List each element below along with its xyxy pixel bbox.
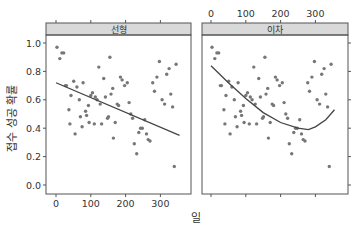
- data-point: [290, 152, 293, 155]
- data-point: [315, 98, 318, 101]
- data-point: [286, 117, 289, 120]
- data-point: [262, 115, 265, 118]
- data-point: [310, 75, 313, 78]
- points: [210, 46, 332, 169]
- data-point: [255, 122, 258, 125]
- data-point: [93, 122, 96, 125]
- data-point: [300, 132, 303, 135]
- data-point: [308, 90, 311, 93]
- data-point: [242, 121, 245, 124]
- data-point: [153, 90, 156, 93]
- data-point: [210, 46, 213, 49]
- data-point: [288, 142, 291, 145]
- data-point: [58, 57, 61, 60]
- data-point: [292, 131, 295, 134]
- data-point: [123, 84, 126, 87]
- data-point: [217, 51, 220, 54]
- data-point: [68, 122, 71, 125]
- y-tick-label: 0.4: [26, 123, 41, 134]
- data-point: [155, 75, 158, 78]
- data-point: [324, 92, 327, 95]
- quadratic-fit-curve: [211, 66, 335, 130]
- x-tick-label-top: 200: [272, 8, 290, 19]
- data-point: [127, 101, 130, 104]
- data-point: [250, 98, 253, 101]
- y-tick-label: 0.0: [26, 180, 41, 191]
- data-point: [259, 95, 262, 98]
- data-point: [303, 139, 306, 142]
- data-point: [69, 94, 72, 97]
- x-tick-label: 0: [53, 198, 59, 209]
- data-point: [213, 57, 216, 60]
- data-point: [282, 101, 285, 104]
- y-tick-label: 1.0: [26, 38, 41, 49]
- data-point: [120, 78, 123, 81]
- data-point: [80, 125, 83, 128]
- data-point: [167, 67, 170, 70]
- data-point: [242, 104, 245, 107]
- x-tick-label-top: 0: [208, 8, 214, 19]
- data-point: [257, 77, 260, 80]
- data-point: [233, 98, 236, 101]
- data-point: [141, 127, 144, 130]
- data-point: [313, 60, 316, 63]
- data-point: [108, 56, 111, 59]
- axes: 0.00.20.40.60.81.0: [26, 38, 351, 191]
- data-point: [87, 104, 90, 107]
- data-point: [67, 108, 70, 111]
- y-axis-label: 접수 성공 확률: [6, 85, 19, 152]
- x-tick-label: 300: [151, 198, 169, 209]
- data-point: [318, 102, 321, 105]
- y-tick-label: 0.8: [26, 66, 41, 77]
- panel-frame: [202, 35, 348, 194]
- data-point: [235, 125, 238, 128]
- data-point: [278, 84, 281, 87]
- data-point: [117, 104, 120, 107]
- data-point: [131, 117, 134, 120]
- data-point: [94, 95, 97, 98]
- data-point: [62, 51, 65, 54]
- strip-label: 이차: [267, 24, 284, 35]
- data-point: [272, 104, 275, 107]
- data-point: [326, 105, 329, 108]
- data-point: [264, 92, 267, 95]
- data-point: [78, 98, 81, 101]
- data-point: [222, 108, 225, 111]
- x-tick-label-top: 100: [237, 8, 255, 19]
- data-point: [148, 139, 151, 142]
- data-point: [306, 81, 309, 84]
- data-point: [81, 81, 84, 84]
- data-point: [266, 87, 269, 90]
- panel-frame: [46, 35, 191, 194]
- data-point: [249, 95, 252, 98]
- data-point: [109, 92, 112, 95]
- data-point: [99, 102, 102, 105]
- data-point: [126, 81, 129, 84]
- data-point: [269, 121, 272, 124]
- data-point: [111, 87, 114, 90]
- x-axis-label: 일: [191, 211, 201, 225]
- linear-fit-line: [56, 83, 180, 136]
- data-point: [133, 142, 136, 145]
- data-point: [104, 95, 107, 98]
- x-tick-label: 100: [82, 198, 100, 209]
- data-point: [55, 46, 58, 49]
- data-point: [112, 136, 115, 139]
- data-point: [158, 60, 161, 63]
- data-point: [228, 132, 231, 135]
- data-point: [171, 105, 174, 108]
- data-point: [252, 65, 255, 68]
- points: [55, 46, 178, 169]
- data-point: [114, 121, 117, 124]
- data-point: [72, 80, 75, 83]
- data-point: [329, 63, 332, 66]
- data-point: [275, 78, 278, 81]
- data-point: [328, 165, 331, 168]
- y-tick-label: 0.2: [26, 151, 41, 162]
- data-point: [97, 65, 100, 68]
- trellis-chart: 선형0100200300 이차0100200300 0.00.20.40.60.…: [0, 0, 359, 237]
- data-point: [73, 132, 76, 135]
- data-point: [163, 102, 166, 105]
- data-point: [284, 112, 287, 115]
- data-point: [100, 122, 103, 125]
